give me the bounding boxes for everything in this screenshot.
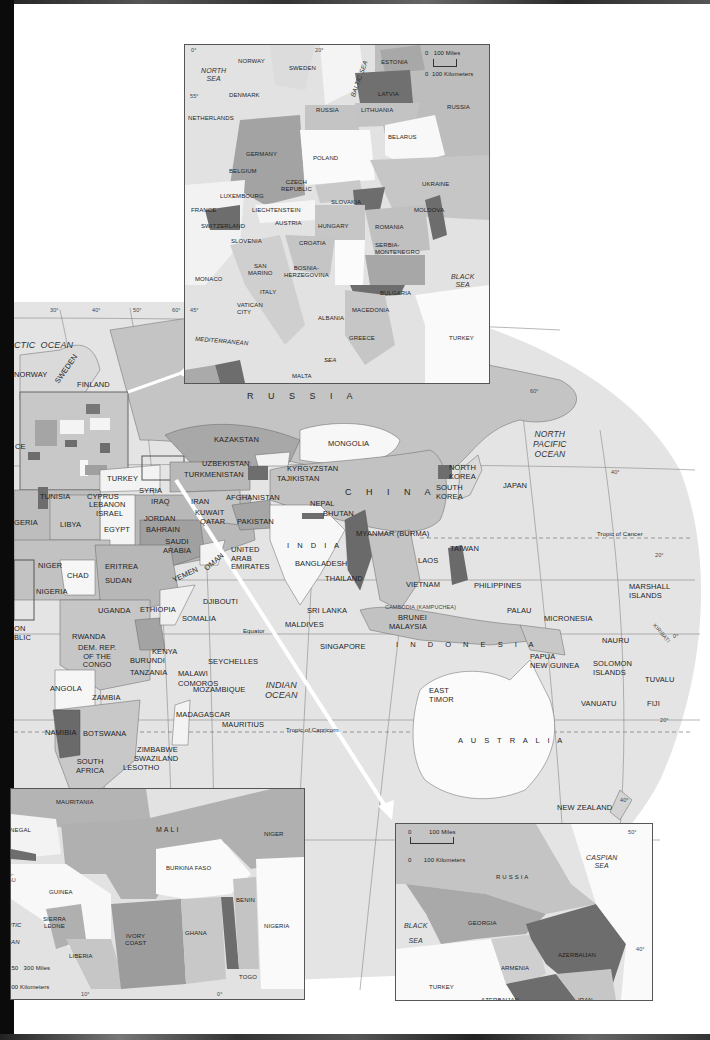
ocean-label-north-pacific: NORTH PACIFIC OCEAN	[533, 430, 567, 459]
inset-country-netherlands: NETHERLANDS	[188, 115, 234, 122]
country-maldives: MALDIVES	[285, 621, 324, 630]
country-ethiopia: ETHIOPIA	[140, 606, 176, 615]
inset-caucasus: 0 100 Miles 0 100 Kilometers 50° 40° CAS…	[395, 823, 653, 1001]
inset-country-bosnia-herzegovina: BOSNIA- HERZEGOVINA	[284, 265, 329, 279]
wa-country-burkina-faso: BURKINA FASO	[166, 865, 211, 872]
country-japan: JAPAN	[503, 482, 527, 491]
inset-country-albania: ALBANIA	[318, 315, 344, 322]
wa-country-guinea-bissau: A- AU	[10, 871, 16, 884]
tick-40-lat: 40°	[611, 469, 620, 475]
inset-country-hungary: HUNGARY	[318, 223, 349, 230]
country-uae: UNITED ARAB EMIRATES	[231, 546, 270, 572]
inset-country-sweden: SWEDEN	[289, 65, 316, 72]
country-mozambique: MOZAMBIQUE	[193, 686, 245, 695]
country-uzbekistan: UZBEKISTAN	[202, 460, 250, 469]
country-iran: IRAN	[191, 498, 209, 507]
inset-europe-tick-55: 55°	[190, 93, 199, 99]
country-nigeria: NIGERIA	[36, 588, 68, 597]
country-turkmenistan: TURKMENISTAN	[184, 471, 244, 480]
inset-country-greece: GREECE	[349, 335, 375, 342]
country-malawi: MALAWI	[178, 670, 208, 679]
ocean-label-indian: INDIAN OCEAN	[265, 680, 298, 701]
country-singapore: SINGAPORE	[320, 643, 366, 652]
wa-scale-miles: 150 300 Miles	[10, 965, 50, 972]
country-north-korea: NORTH KOREA	[449, 464, 476, 481]
land-australia	[413, 660, 555, 799]
ca-water-caspian: CASPIAN SEA	[586, 854, 617, 870]
ca-country-georgia: GEORGIA	[468, 920, 497, 927]
inset-country-vatican-city: VATICAN CITY	[237, 302, 263, 316]
country-kyrgyzstan: KYRGYZSTAN	[287, 465, 338, 474]
inset-country-monaco: MONACO	[195, 276, 223, 283]
country-iraq: IRAQ	[151, 498, 170, 507]
country-egypt: EGYPT	[104, 526, 130, 535]
country-libya: LIBYA	[60, 521, 81, 530]
cut-label-2: BLIC	[14, 634, 31, 643]
inset-country-slovenia: SLOVENIA	[231, 238, 262, 245]
inset-country-lithuania: LITHUANIA	[361, 107, 393, 114]
country-bhutan: BHUTAN	[323, 510, 354, 519]
ca-tick-40: 40°	[636, 946, 645, 952]
country-tajikistan: TAJIKISTAN	[277, 475, 319, 484]
inset-west-africa: MAURITANIA ENEGAL MALI NIGER BURKINA FAS…	[10, 788, 305, 1000]
country-cambodia: CAMBODIA (KAMPUCHEA)	[385, 604, 456, 610]
wa-scale-km: 300 Kilometers	[10, 984, 49, 991]
wa-country-guinea: GUINEA	[49, 889, 73, 896]
region-label-australia: A U S T R A L I A	[458, 737, 565, 746]
country-afghanistan: AFGHANISTAN	[226, 494, 280, 503]
country-bahrain: BAHRAIN	[146, 526, 180, 535]
country-israel: ISRAEL	[96, 510, 123, 519]
country-solomon-islands: SOLOMON ISLANDS	[593, 660, 632, 677]
inset-country-bulgaria: BULGARIA	[380, 290, 411, 297]
country-palau: PALAU	[507, 607, 532, 616]
country-somalia: SOMALIA	[182, 615, 216, 624]
inset-europe-scale-miles: 0 100 Miles	[425, 50, 460, 57]
country-eritrea: ERITREA	[105, 563, 138, 572]
wa-country-benin: BENIN	[236, 897, 255, 904]
country-chad: CHAD	[67, 572, 89, 581]
inset-country-belarus: BELARUS	[388, 134, 417, 141]
country-burundi: BURUNDI	[130, 657, 165, 666]
country-vanuatu: VANUATU	[581, 700, 616, 709]
tick-40: 40°	[92, 307, 101, 313]
ocean-label-arctic: CTIC OCEAN	[14, 340, 73, 350]
inset-europe-tick-0: 0°	[191, 47, 196, 53]
tick-0-lat: 0°	[673, 633, 678, 639]
country-east-timor: EAST TIMOR	[429, 687, 454, 704]
country-bangladesh: BANGLADESH	[295, 560, 347, 569]
wa-country-nigeria: NIGERIA	[264, 923, 289, 930]
inset-country-malta: MALTA	[292, 373, 312, 380]
inset-country-austria: AUSTRIA	[275, 220, 302, 227]
country-mongolia: MONGOLIA	[328, 440, 369, 449]
tick-20-lat: 20°	[655, 552, 664, 558]
inset-country-denmark: DENMARK	[229, 92, 260, 99]
wa-tick-0: 0°	[217, 991, 222, 997]
inset-country-latvia: LATVIA	[378, 91, 399, 98]
tick-50: 50°	[133, 307, 142, 313]
country-tuvalu: TUVALU	[645, 676, 675, 685]
ca-scale-km: 0 100 Kilometers	[408, 857, 465, 864]
wa-country-niger: NIGER	[264, 831, 284, 838]
country-south-korea: SOUTH KOREA	[436, 484, 463, 501]
country-myanmar: MYANMAR (BURMA)	[356, 530, 429, 539]
inset-country-switzerland: SWITZERLAND	[201, 223, 245, 230]
ca-country-iran: IRAN	[578, 997, 593, 1001]
region-label-india: I N D I A	[287, 542, 342, 551]
inset-country-ukraine: UKRAINE	[422, 181, 449, 188]
country-madagascar: MADAGASCAR	[176, 711, 230, 720]
inset-country-russia: RUSSIA	[447, 104, 470, 111]
inset-country-belgium: BELGIUM	[229, 168, 257, 175]
wa-country-ghana: GHANA	[185, 930, 207, 937]
inset-caucasus-map	[396, 824, 652, 1000]
inset-country-estonia: ESTONIA	[381, 59, 408, 66]
country-qatar: QATAR	[200, 518, 225, 527]
country-lesotho: LESOTHO	[123, 764, 160, 773]
country-nepal: NEPAL	[310, 500, 335, 509]
country-djibouti: DJIBOUTI	[203, 598, 238, 607]
ca-country-turkey: TURKEY	[429, 984, 454, 991]
country-seychelles: SEYCHELLES	[208, 658, 258, 667]
country-drc: DEM. REP. OF THE CONGO	[78, 644, 116, 670]
wa-country-senegal: ENEGAL	[10, 827, 31, 834]
ca-country-russia: RUSSIA	[496, 874, 530, 881]
wa-country-sierra-leone: SIERRA LEONE	[43, 916, 66, 930]
